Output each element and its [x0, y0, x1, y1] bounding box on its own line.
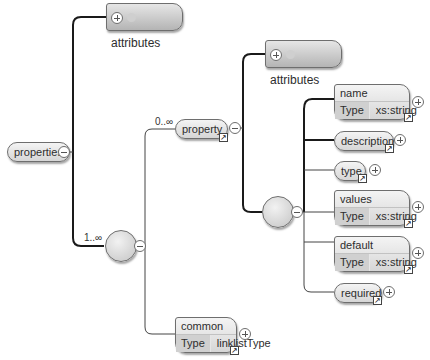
multiplicity-label: 0..∞	[155, 116, 173, 127]
expand-icon[interactable]	[111, 12, 123, 24]
expand-icon[interactable]	[412, 247, 424, 259]
collapse-icon[interactable]	[291, 206, 303, 218]
reference-arrow-icon: ↗	[358, 174, 367, 183]
element-label: default	[335, 237, 409, 254]
reference-arrow-icon: ↗	[385, 144, 394, 153]
type-key: Type	[335, 102, 370, 119]
attributes-group-property[interactable]: attributes	[265, 40, 342, 68]
expand-icon[interactable]	[369, 164, 381, 176]
reference-arrow-icon: ↗	[404, 113, 413, 122]
type-key: Type	[335, 254, 370, 271]
root-label: properties	[14, 146, 63, 158]
sequence-compositor-icon[interactable]	[105, 230, 137, 262]
expand-icon[interactable]	[394, 134, 406, 146]
attributes-group-root[interactable]: attributes	[106, 3, 183, 31]
expand-icon[interactable]	[270, 49, 282, 61]
attribute-icon	[127, 13, 136, 22]
element-common[interactable]: common TypelinklistType	[175, 317, 237, 353]
attribute-icon	[286, 50, 295, 59]
reference-arrow-icon: ↗	[219, 133, 228, 142]
element-label: name	[335, 85, 409, 102]
reference-arrow-icon: ↗	[404, 219, 413, 228]
collapse-icon[interactable]	[134, 240, 146, 252]
element-label: values	[335, 191, 409, 208]
attributes-label: attributes	[111, 36, 160, 50]
expand-icon[interactable]	[239, 328, 251, 340]
type-key: Type	[176, 335, 211, 352]
element-label: property	[182, 123, 222, 135]
expand-icon[interactable]	[412, 96, 424, 108]
reference-arrow-icon: ↗	[373, 296, 382, 305]
element-name[interactable]: name Typexs:string	[334, 84, 410, 120]
type-key: Type	[335, 208, 370, 225]
multiplicity-label: 1..∞	[84, 232, 102, 243]
collapse-icon[interactable]	[58, 146, 70, 158]
reference-arrow-icon: ↗	[230, 346, 239, 355]
expand-icon[interactable]	[412, 201, 424, 213]
sequence-compositor-icon[interactable]	[262, 196, 294, 228]
reference-arrow-icon: ↗	[404, 265, 413, 274]
expand-icon[interactable]	[383, 286, 395, 298]
attributes-label: attributes	[270, 73, 319, 87]
element-default[interactable]: default Typexs:string	[334, 236, 410, 272]
element-values[interactable]: values Typexs:string	[334, 190, 410, 226]
element-label: common	[176, 318, 236, 335]
collapse-icon[interactable]	[229, 122, 241, 134]
